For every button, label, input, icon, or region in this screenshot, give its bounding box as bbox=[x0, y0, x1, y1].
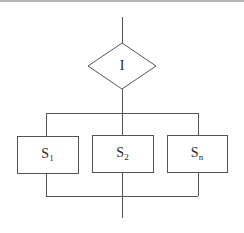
flowchart-canvas bbox=[0, 0, 244, 233]
branch-label-s2: S2 bbox=[92, 146, 153, 160]
branch-label-s1-subscript: 1 bbox=[49, 153, 54, 163]
branch-label-sn-main: S bbox=[191, 145, 199, 160]
branch-label-s2-subscript: 2 bbox=[124, 152, 129, 162]
decision-label-text: I bbox=[120, 58, 125, 73]
branch-label-sn: Sn bbox=[167, 146, 227, 160]
branch-label-s1-main: S bbox=[41, 146, 49, 161]
branch-label-s2-main: S bbox=[116, 145, 124, 160]
branch-label-sn-subscript: n bbox=[199, 152, 204, 162]
decision-label: I bbox=[112, 59, 132, 73]
branch-label-s1: S1 bbox=[17, 147, 78, 161]
